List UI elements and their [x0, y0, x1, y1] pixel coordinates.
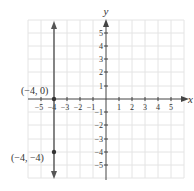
x-tick-labels: −5 −3 −2 −1 1 2 3 4 5 −4	[35, 103, 173, 112]
y-tick-label: −3	[94, 135, 103, 144]
x-tick-label: −5	[35, 103, 44, 112]
x-tick-label: −3	[61, 103, 70, 112]
x-axis-label: x	[187, 93, 193, 105]
point-neg4-0	[52, 97, 56, 101]
coordinate-plane: −5 −3 −2 −1 1 2 3 4 5 −4 5 4 3 2 1 −1 −2…	[0, 0, 194, 191]
y-tick-label: 1	[99, 82, 103, 91]
point-label-neg4-0: (−4, 0)	[21, 85, 48, 97]
y-tick-label: 3	[99, 55, 103, 64]
x-tick-label: 3	[143, 103, 147, 112]
line-arrow-up-icon	[51, 21, 57, 29]
x-tick-label: 4	[156, 103, 160, 112]
x-tick-label: 1	[117, 103, 121, 112]
y-tick-label: −1	[94, 108, 103, 117]
y-tick-label: 4	[99, 42, 103, 51]
x-tick-label: 5	[169, 103, 173, 112]
y-tick-label: −2	[94, 121, 103, 130]
x-tick-label: −2	[74, 103, 83, 112]
y-axis-label: y	[103, 5, 109, 17]
y-tick-label: −4	[94, 148, 103, 157]
y-tick-label: 5	[99, 29, 103, 38]
y-tick-label: 2	[99, 68, 103, 77]
x-tick-label: 2	[130, 103, 134, 112]
point-neg4-neg4	[52, 150, 56, 154]
point-label-neg4-neg4: (−4, −4)	[11, 152, 44, 164]
x-tick-label: −4	[48, 103, 57, 112]
y-tick-label: −5	[94, 161, 103, 170]
